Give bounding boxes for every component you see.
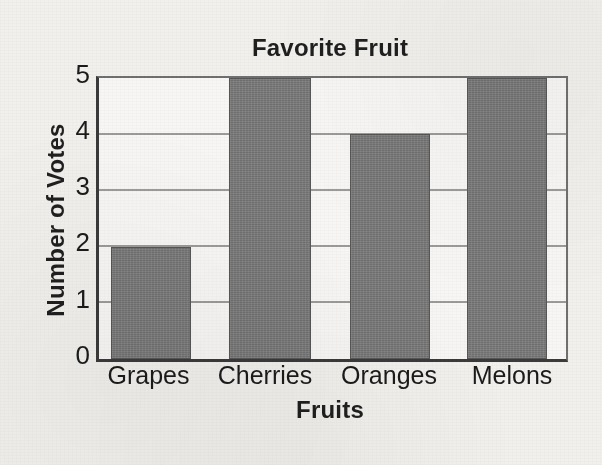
plot-area [96, 76, 568, 362]
x-axis-tick-labels: Grapes Cherries Oranges Melons [96, 361, 563, 395]
x-tick-label-cherries: Cherries [200, 361, 330, 389]
y-tick-label-1: 1 [56, 286, 90, 312]
bar-cherries [229, 78, 311, 359]
bar-melons [467, 78, 547, 359]
x-axis-title: Fruits [96, 396, 564, 424]
y-tick-label-5: 5 [56, 61, 90, 87]
y-axis-tick-labels: 5 4 3 2 1 0 [50, 0, 90, 465]
y-tick-label-3: 3 [56, 173, 90, 199]
x-tick-label-grapes: Grapes [91, 361, 206, 389]
x-tick-label-melons: Melons [451, 361, 573, 389]
y-tick-label-2: 2 [56, 229, 90, 255]
y-tick-label-4: 4 [56, 117, 90, 143]
bar-oranges [350, 134, 430, 359]
bar-chart-figure: Favorite Fruit Number of Votes Fruits 5 … [0, 0, 602, 465]
x-tick-label-oranges: Oranges [324, 361, 454, 389]
bar-grapes [111, 247, 191, 359]
y-tick-label-0: 0 [56, 342, 90, 368]
chart-title: Favorite Fruit [96, 34, 564, 62]
